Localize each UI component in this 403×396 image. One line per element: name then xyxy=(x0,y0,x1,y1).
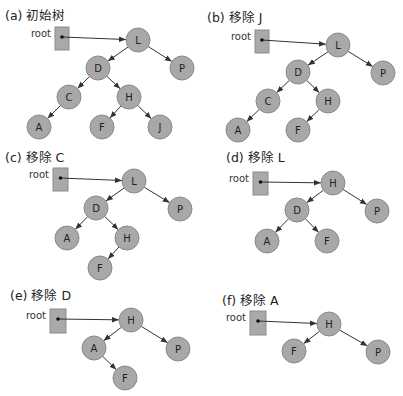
node-label: D xyxy=(294,67,302,78)
root-pointer-dot xyxy=(259,180,263,184)
panel-5: (f) 移除 ArootHFP xyxy=(222,293,390,364)
tree-node-f: F xyxy=(113,366,137,390)
node-label: A xyxy=(264,236,271,247)
panel-3: (d) 移除 LrootHDPAF xyxy=(226,150,389,253)
tree-node-h: H xyxy=(119,308,143,332)
edge-l-p xyxy=(348,51,373,66)
tree-node-h: H xyxy=(317,312,341,336)
root-label: root xyxy=(231,31,251,42)
node-label: A xyxy=(235,125,242,136)
edge-root-h xyxy=(261,182,322,183)
edge-h-p xyxy=(141,326,168,342)
tree-node-c: C xyxy=(256,89,280,113)
node-label: D xyxy=(293,205,301,216)
node-label: H xyxy=(123,233,131,244)
panel-0: (a) 初始树rootLPDCHAFJ xyxy=(5,8,194,139)
edge-root-l xyxy=(262,40,326,44)
tree-node-p: P xyxy=(170,56,194,80)
tree-node-f: F xyxy=(286,118,310,142)
tree-node-p: P xyxy=(365,199,389,223)
root-pointer-box xyxy=(50,309,66,333)
edge-l-d xyxy=(308,52,328,66)
panel-4: (e) 移除 DrootHAPF xyxy=(10,288,190,390)
panel-title: (c) 移除 C xyxy=(5,150,65,165)
node-label: A xyxy=(64,233,71,244)
tree-node-f: F xyxy=(90,115,114,139)
node-label: P xyxy=(175,344,181,355)
tree-node-p: P xyxy=(168,197,192,221)
edge-h-j xyxy=(138,105,152,118)
tree-node-a: A xyxy=(255,229,279,253)
tree-node-p: P xyxy=(371,61,395,85)
node-label: F xyxy=(122,373,128,384)
edge-l-d xyxy=(108,47,128,61)
node-label: L xyxy=(131,176,137,187)
edge-d-h xyxy=(107,76,120,89)
node-label: A xyxy=(91,343,98,354)
edge-h-d xyxy=(307,190,324,203)
edge-h-f xyxy=(304,331,320,343)
panel-1: (b) 移除 JrootLPDCHAF xyxy=(207,10,395,142)
panel-title: (d) 移除 L xyxy=(226,150,285,165)
tree-node-c: C xyxy=(57,85,81,109)
edge-c-a xyxy=(247,109,260,121)
root-label: root xyxy=(29,169,49,180)
node-label: F xyxy=(324,236,330,247)
edge-root-h xyxy=(258,321,317,323)
edge-a-f xyxy=(103,356,117,369)
edge-l-p xyxy=(148,46,172,61)
edge-c-a xyxy=(47,105,60,118)
tree-node-h: H xyxy=(115,226,139,250)
node-label: H xyxy=(125,92,133,103)
node-label: H xyxy=(329,178,337,189)
node-label: F xyxy=(99,122,105,133)
tree-node-a: A xyxy=(226,118,250,142)
edge-h-f xyxy=(110,106,121,118)
node-label: D xyxy=(92,203,100,214)
node-label: L xyxy=(135,35,141,46)
tree-node-l: L xyxy=(326,33,350,57)
node-label: D xyxy=(94,63,102,74)
edge-d-f xyxy=(305,219,318,233)
node-label: F xyxy=(97,263,103,274)
tree-node-f: F xyxy=(282,339,306,363)
tree-node-l: L xyxy=(126,28,150,52)
node-label: P xyxy=(380,68,386,79)
edge-root-h xyxy=(58,319,119,320)
tree-node-a: A xyxy=(82,336,106,360)
tree-node-d: D xyxy=(84,196,108,220)
tree-node-h: H xyxy=(321,171,345,195)
edge-l-p xyxy=(144,187,169,203)
edge-d-c xyxy=(77,76,89,88)
edge-h-p xyxy=(343,189,367,204)
edge-d-c xyxy=(277,80,290,92)
node-label: C xyxy=(265,96,272,107)
node-label: P xyxy=(179,63,185,74)
node-label: H xyxy=(324,96,332,107)
root-pointer-dot xyxy=(56,317,60,321)
node-label: H xyxy=(325,319,333,330)
edge-root-l xyxy=(62,37,126,40)
tree-node-p: P xyxy=(166,337,190,361)
tree-node-l: L xyxy=(122,169,146,193)
tree-node-a: A xyxy=(27,115,51,139)
root-pointer-box xyxy=(250,311,266,335)
node-label: H xyxy=(127,315,135,326)
root-pointer-dot xyxy=(256,319,260,323)
tree-node-d: D xyxy=(285,198,309,222)
tree-node-f: F xyxy=(315,229,339,253)
root-label: root xyxy=(226,312,246,323)
node-label: A xyxy=(36,122,43,133)
root-pointer-dot xyxy=(59,176,63,180)
edge-h-a xyxy=(104,327,122,341)
tree-node-a: A xyxy=(55,226,79,250)
node-label: P xyxy=(177,204,183,215)
node-label: L xyxy=(335,40,341,51)
tree-node-h: H xyxy=(316,89,340,113)
root-pointer-dot xyxy=(60,35,64,39)
panel-title: (b) 移除 J xyxy=(207,10,262,25)
edge-root-l xyxy=(61,178,123,181)
root-label: root xyxy=(229,173,249,184)
node-label: C xyxy=(66,92,73,103)
tree-node-p: P xyxy=(366,340,390,364)
